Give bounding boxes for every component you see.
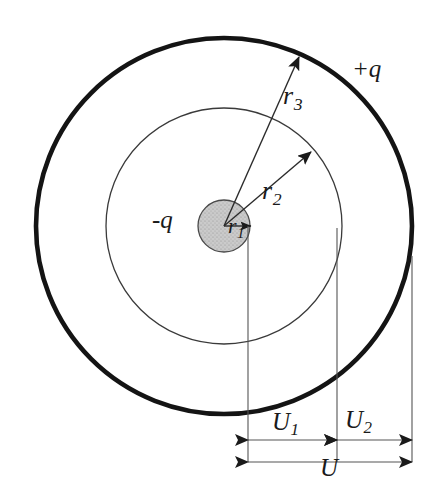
dimension-label-u: U — [320, 455, 339, 484]
dimension-label-u2-subscript: 2 — [364, 418, 373, 437]
radius-label-r3: r3 — [283, 83, 302, 113]
radius-label-r2-symbol: r — [262, 176, 272, 205]
dimension-label-u2-symbol: U — [345, 406, 363, 433]
radius-label-r1: r1 — [228, 215, 245, 241]
dimension-label-u1: U1 — [272, 409, 299, 438]
radius-label-r3-subscript: 3 — [294, 94, 303, 114]
radius-label-r3-symbol: r — [283, 81, 293, 110]
dimension-label-u1-subscript: 1 — [291, 420, 300, 439]
radius-label-r2: r2 — [262, 178, 281, 208]
dimension-label-u2: U2 — [345, 407, 372, 436]
charge-label-positive: +q — [352, 56, 381, 81]
radius-label-r1-symbol: r — [228, 213, 237, 238]
dimension-label-u-symbol: U — [320, 454, 338, 481]
dimension-label-u1-symbol: U — [272, 408, 290, 435]
figure-container: -q +q r1 r2 r3 U1 U2 U — [0, 0, 430, 492]
radius-label-r1-subscript: 1 — [237, 225, 244, 241]
radius-label-r2-subscript: 2 — [273, 189, 282, 209]
charge-label-negative: -q — [152, 207, 173, 232]
